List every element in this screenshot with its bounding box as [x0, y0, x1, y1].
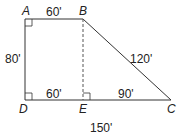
- right-angle-e-icon: [83, 93, 90, 100]
- vertex-b-label: B: [79, 4, 87, 18]
- measure-bc: 120': [130, 52, 152, 66]
- right-angle-d-icon: [25, 93, 32, 100]
- measure-ad: 80': [5, 52, 21, 66]
- vertex-c-label: C: [167, 102, 176, 116]
- vertex-e-label: E: [79, 102, 88, 116]
- right-angle-a-icon: [25, 19, 32, 26]
- measure-dc: 150': [90, 121, 112, 135]
- measure-ab: 60': [46, 5, 62, 19]
- vertex-a-label: A: [21, 4, 30, 18]
- measure-de: 60': [46, 87, 62, 101]
- vertex-d-label: D: [19, 102, 28, 116]
- trapezoid-diagram: A B D E C 60' 80' 120' 60' 90' 150': [0, 0, 182, 137]
- measure-ec: 90': [118, 87, 134, 101]
